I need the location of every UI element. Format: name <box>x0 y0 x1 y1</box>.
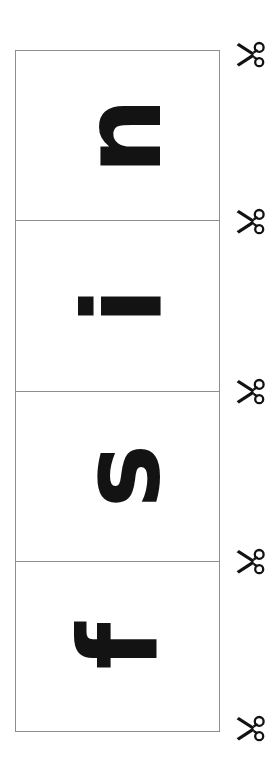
letter-card-2[interactable]: i <box>16 221 219 391</box>
letter-glyph-i: i <box>70 287 178 324</box>
letter-glyph-f: f <box>66 623 174 670</box>
letter-glyph-s: s <box>67 444 175 508</box>
letter-card-grid: n i s f <box>15 50 220 732</box>
letter-glyph-n: n <box>69 97 177 174</box>
letter-card-1[interactable]: n <box>16 51 219 221</box>
scissors-icon <box>234 375 268 409</box>
scissors-icon <box>234 545 268 579</box>
scissors-icon <box>234 38 268 72</box>
printable-sheet: n i s f <box>0 0 279 777</box>
scissors-icon <box>234 712 268 746</box>
letter-card-4[interactable]: f <box>16 562 219 731</box>
scissors-icon <box>234 205 268 239</box>
letter-card-3[interactable]: s <box>16 392 219 562</box>
